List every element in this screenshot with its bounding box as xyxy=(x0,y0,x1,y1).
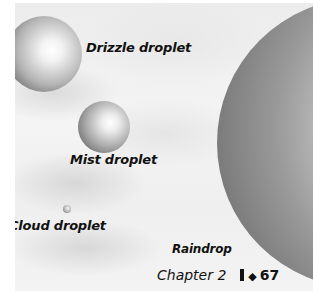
drizzle-droplet-label: Drizzle droplet xyxy=(86,40,191,55)
page-number: 67 xyxy=(260,267,279,283)
raindrop-label: Raindrop xyxy=(172,242,232,256)
diamond-icon: ◆ xyxy=(248,270,256,283)
mist-droplet-label: Mist droplet xyxy=(70,152,157,167)
drizzle-droplet-sphere xyxy=(15,16,82,92)
illustration-panel: Drizzle droplet Mist droplet Cloud dropl… xyxy=(15,3,313,291)
mist-droplet-sphere xyxy=(78,101,130,153)
cloud-droplet-label: Cloud droplet xyxy=(15,218,106,233)
bar-icon xyxy=(240,269,244,281)
chapter-label: Chapter 2 xyxy=(157,267,226,283)
cloud-droplet-sphere xyxy=(63,205,71,213)
page-footer: Chapter 2◆67 xyxy=(157,267,279,283)
